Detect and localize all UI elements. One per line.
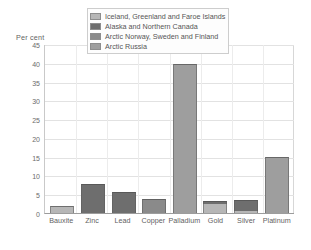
legend-item-label: Iceland, Greenland and Faroe Islands: [105, 12, 225, 21]
bar[interactable]: [234, 200, 258, 213]
bar-group: [45, 45, 294, 213]
bar[interactable]: [112, 192, 136, 213]
bar-segment: [50, 206, 74, 214]
bar-slot: [47, 45, 78, 213]
x-axis-tick-label: Copper: [138, 216, 169, 232]
bar[interactable]: [142, 199, 166, 213]
x-axis-tick-labels: BauxiteZincLeadCopperPalladiumGoldSilver…: [44, 216, 294, 232]
y-axis-tick-label: 25: [32, 117, 40, 124]
y-axis-tick-label: 0: [36, 211, 40, 218]
legend-swatch: [90, 43, 101, 50]
bar-slot: [78, 45, 109, 213]
x-axis-tick-label: Gold: [200, 216, 231, 232]
legend-item[interactable]: Iceland, Greenland and Faroe Islands: [90, 11, 225, 21]
y-axis-tick-label: 35: [32, 79, 40, 86]
bar[interactable]: [203, 201, 227, 213]
bar-slot: [200, 45, 231, 213]
legend-item-label: Arctic Norway, Sweden and Finland: [105, 32, 218, 41]
legend-item[interactable]: Alaska and Northern Canada: [90, 21, 225, 31]
legend-swatch: [90, 23, 101, 30]
x-axis-tick-label: Lead: [107, 216, 138, 232]
chart-legend: Iceland, Greenland and Faroe IslandsAlas…: [87, 8, 229, 54]
bar-segment: [112, 192, 136, 213]
bar-chart: Per cent 454035302520151050 BauxiteZincL…: [0, 0, 311, 250]
bar-segment: [142, 199, 166, 213]
x-axis-tick-label: Silver: [231, 216, 262, 232]
y-axis-tick-label: 30: [32, 98, 40, 105]
bar-slot: [170, 45, 201, 213]
bar-segment: [203, 204, 227, 213]
plot-area: [44, 45, 294, 214]
bar-segment: [81, 184, 105, 213]
bar-segment: [234, 211, 258, 213]
bar[interactable]: [50, 206, 74, 214]
y-axis-tick-label: 45: [32, 42, 40, 49]
bar-segment: [173, 64, 197, 213]
legend-item[interactable]: Arctic Norway, Sweden and Finland: [90, 31, 225, 41]
y-axis-tick-label: 15: [32, 154, 40, 161]
bar[interactable]: [265, 157, 289, 213]
bar-slot: [231, 45, 262, 213]
bar-segment: [234, 200, 258, 211]
x-axis-tick-label: Platinum: [261, 216, 292, 232]
legend-item-label: Arctic Russia: [105, 42, 147, 51]
y-axis-tick-label: 5: [36, 192, 40, 199]
bar-slot: [261, 45, 292, 213]
bar-slot: [139, 45, 170, 213]
x-axis-tick-label: Bauxite: [46, 216, 77, 232]
y-axis-tick-label: 10: [32, 173, 40, 180]
bar-segment: [265, 157, 289, 213]
x-axis-tick-label: Zinc: [77, 216, 108, 232]
bar-slot: [108, 45, 139, 213]
y-axis-tick-label: 40: [32, 60, 40, 67]
y-axis-tick-label: 20: [32, 135, 40, 142]
x-axis-tick-label: Palladium: [169, 216, 201, 232]
legend-item-label: Alaska and Northern Canada: [105, 22, 198, 31]
legend-swatch: [90, 13, 101, 20]
legend-swatch: [90, 33, 101, 40]
y-axis-tick-labels: 454035302520151050: [16, 45, 40, 214]
legend-item[interactable]: Arctic Russia: [90, 41, 225, 51]
bar[interactable]: [81, 184, 105, 213]
bar[interactable]: [173, 64, 197, 213]
